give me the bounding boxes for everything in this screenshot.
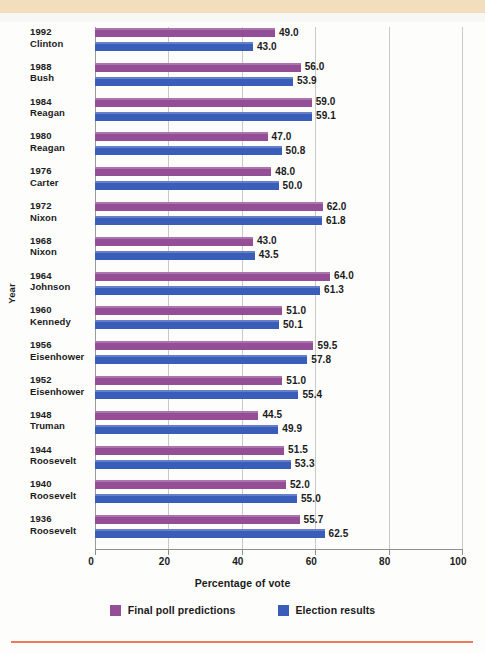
bar-highlight	[95, 480, 286, 482]
category-year: 1948	[30, 409, 92, 421]
bar-highlight	[95, 63, 301, 65]
bar-highlight	[95, 251, 255, 253]
bar-election-result	[95, 42, 253, 51]
bar-value-label: 55.7	[304, 515, 324, 524]
category-name: Roosevelt	[30, 525, 92, 537]
bar-value-label: 64.0	[334, 271, 354, 280]
bar-election-result	[95, 251, 255, 260]
bar-highlight	[95, 460, 291, 462]
category-name: Nixon	[30, 246, 92, 258]
category-year: 1972	[30, 200, 92, 212]
bar-election-result	[95, 460, 291, 469]
category-name: Truman	[30, 420, 92, 432]
top-banner-shade	[0, 13, 485, 22]
category-year: 1976	[30, 165, 92, 177]
bar-highlight	[95, 306, 282, 308]
category-name: Carter	[30, 177, 92, 189]
bar-election-result	[95, 146, 282, 155]
category-year: 1944	[30, 444, 92, 456]
bar-value-label: 62.5	[329, 529, 349, 538]
category-name: Roosevelt	[30, 490, 92, 502]
category-year: 1992	[30, 26, 92, 38]
bar-election-result	[95, 286, 320, 295]
category-name: Clinton	[30, 38, 92, 50]
x-tick-label-0: 0	[71, 556, 111, 567]
bar-value-label: 50.8	[286, 146, 306, 155]
bar-value-label: 61.8	[326, 216, 346, 225]
bar-highlight	[95, 237, 253, 239]
x-tick-0	[95, 549, 96, 555]
category-year: 1960	[30, 304, 92, 316]
bar-highlight	[95, 42, 253, 44]
bar-highlight	[95, 515, 300, 517]
category-label: 1988Bush	[30, 61, 92, 84]
x-tick-60	[315, 549, 316, 555]
category-label: 1948Truman	[30, 409, 92, 432]
x-tick-label-40: 40	[218, 556, 258, 567]
legend-label-poll: Final poll predictions	[128, 604, 236, 616]
bar-highlight	[95, 202, 323, 204]
bar-final-poll-prediction	[95, 237, 253, 246]
bar-final-poll-prediction	[95, 98, 312, 107]
bar-final-poll-prediction	[95, 132, 268, 141]
bar-highlight	[95, 28, 275, 30]
category-name: Reagan	[30, 107, 92, 119]
category-label: 1960Kennedy	[30, 304, 92, 327]
bar-value-label: 51.0	[286, 376, 306, 385]
bar-value-label: 49.0	[279, 28, 299, 37]
bar-value-label: 53.3	[295, 459, 315, 468]
bar-highlight	[95, 132, 268, 134]
bar-election-result	[95, 355, 307, 364]
bar-final-poll-prediction	[95, 480, 286, 489]
category-label: 1964Johnson	[30, 270, 92, 293]
bar-highlight	[95, 425, 278, 427]
bar-highlight	[95, 341, 313, 343]
bar-highlight	[95, 146, 282, 148]
bar-highlight	[95, 77, 293, 79]
legend-swatch-result	[278, 605, 289, 616]
bar-election-result	[95, 112, 312, 121]
x-tick-label-100: 100	[438, 556, 478, 567]
category-year: 1980	[30, 130, 92, 142]
category-label: 1984Reagan	[30, 96, 92, 119]
bar-value-label: 44.5	[262, 410, 282, 419]
x-tick-label-20: 20	[144, 556, 184, 567]
legend-label-result: Election results	[296, 604, 376, 616]
category-year: 1936	[30, 513, 92, 525]
bar-final-poll-prediction	[95, 411, 258, 420]
x-axis-line	[95, 549, 463, 550]
category-label: 1936Roosevelt	[30, 513, 92, 536]
bar-value-label: 48.0	[275, 167, 295, 176]
bar-final-poll-prediction	[95, 306, 282, 315]
y-axis-label: Year	[6, 274, 17, 314]
bar-value-label: 50.1	[283, 320, 303, 329]
bar-final-poll-prediction	[95, 167, 271, 176]
bar-value-label: 56.0	[305, 62, 325, 71]
bar-election-result	[95, 425, 278, 434]
bar-final-poll-prediction	[95, 272, 330, 281]
x-tick-80	[389, 549, 390, 555]
bar-final-poll-prediction	[95, 341, 313, 350]
category-name: Eisenhower	[30, 351, 92, 363]
category-year: 1988	[30, 61, 92, 73]
bar-highlight	[95, 112, 312, 114]
x-axis-label: Percentage of vote	[0, 577, 485, 589]
bar-value-label: 43.0	[257, 42, 277, 51]
bar-value-label: 49.9	[282, 424, 302, 433]
x-tick-40	[242, 549, 243, 555]
x-tick-100	[462, 549, 463, 555]
bar-value-label: 43.5	[259, 250, 279, 259]
bar-highlight	[95, 411, 258, 413]
bar-value-label: 55.0	[301, 494, 321, 503]
bar-value-label: 62.0	[327, 202, 347, 211]
category-year: 1984	[30, 96, 92, 108]
bar-value-label: 43.0	[257, 236, 277, 245]
bar-highlight	[95, 181, 279, 183]
category-name: Eisenhower	[30, 386, 92, 398]
gridline-100	[462, 27, 463, 549]
chart-legend: Final poll predictions Election results	[0, 604, 485, 616]
category-label: 1972Nixon	[30, 200, 92, 223]
bar-election-result	[95, 390, 298, 399]
bar-value-label: 51.5	[288, 445, 308, 454]
bar-value-label: 59.5	[317, 341, 337, 350]
